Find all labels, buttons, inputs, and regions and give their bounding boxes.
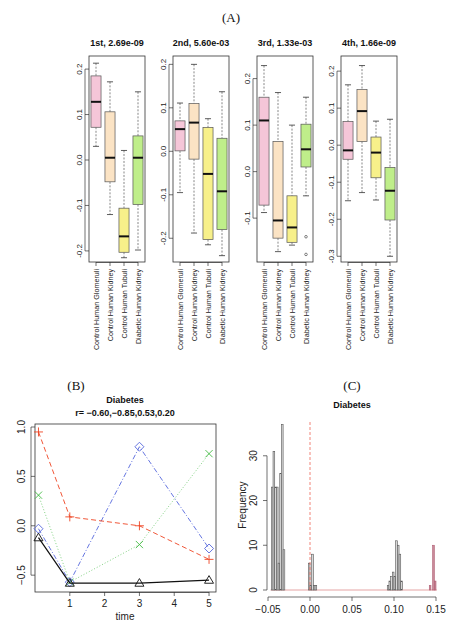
outlier-point [305,253,308,256]
x-tick-label: Control Human Glomeruli [176,269,185,350]
x-axis-label: time [116,611,135,622]
box-iqr [175,121,185,151]
box [273,93,283,252]
subplot-title: 4th, 1.66e-09 [342,38,396,48]
y-tick-label: -0.3 [327,249,336,263]
x-tick-label: 5 [206,598,212,609]
box [203,119,213,245]
box [133,92,143,250]
box-iqr [133,136,143,205]
y-tick-label: -0.1 [243,211,252,225]
line-series-plus [34,427,214,563]
boxplot-subplot: 2nd, 5.60e-03-0.2-0.10.00.10.2Control Hu… [159,38,229,350]
y-tick-label: -0.1 [327,175,336,189]
x-tick-label: Control Human Kidney [190,269,199,342]
x-tick-label: 0.15 [426,604,446,615]
figure: (A) (B) (C) 1st, 2.69e-09-0.2-0.10.00.10… [0,0,462,636]
plot-frame [35,424,216,592]
histogram-bar [434,581,436,590]
plus-marker [65,512,74,521]
x-tick-label: Diabetic Human Kidney [386,269,395,345]
y-tick-label: −0.5 [16,565,27,585]
box-iqr [301,124,311,167]
histogram-bar [401,581,403,590]
histogram-panel: Diabetes0102030Frequency−0.050.000.050.1… [237,400,446,615]
box [287,125,297,245]
chart-title: Diabetes [333,400,371,410]
box-iqr [217,138,227,229]
y-tick-label: 10 [248,539,259,551]
panel-label-b: (B) [67,378,84,393]
y-tick-label: -0.2 [159,231,168,245]
boxplot-panel: 1st, 2.69e-09-0.2-0.10.00.10.2Control Hu… [75,38,397,350]
plus-marker [135,521,144,530]
y-tick-label: 0.2 [159,58,168,70]
series-line [38,454,209,582]
box [217,92,227,256]
y-tick-label: 0.5 [16,469,27,483]
box [301,97,311,256]
box-iqr [287,196,297,243]
x-tick-label: Control Human Kidney [106,269,115,342]
y-tick-label: 0.0 [159,145,168,157]
y-tick-label: -0.1 [159,187,168,201]
box [189,64,199,233]
y-tick-label: 0.0 [327,139,336,151]
x-tick-label: Control Human Tubuli [204,269,213,339]
x-tick-label: Control Human Tubuli [120,269,129,339]
x-tick-label: Diabetic Human Kidney [302,269,311,345]
histogram-bar [283,550,285,590]
x-tick-label: −0.05 [255,604,281,615]
box [259,66,269,213]
y-axis-label: Frequency [237,481,248,528]
panel-label-a: (A) [222,10,240,25]
box [91,63,101,146]
boxplot-subplot: 4th, 1.66e-09-0.3-0.2-0.10.00.10.2Contro… [327,38,397,350]
box-iqr [259,97,269,205]
outlier-point [305,235,308,238]
box [105,82,115,215]
line-series-triangle [34,533,214,586]
x-tick-label: Control Human Glomeruli [344,269,353,350]
box-iqr [385,167,395,220]
y-tick-label: 0 [248,587,259,593]
box-iqr [343,121,353,159]
x-tick-label: 0.05 [342,604,362,615]
y-tick-label: -0.1 [75,198,84,212]
y-tick-label: 0.2 [75,63,84,75]
histogram-bar [429,586,431,590]
series-line [38,432,209,559]
x-marker [136,541,143,548]
chart-subtitle: r= −0.60,−0.85,0.53,0.20 [75,408,174,418]
subplot-title: 1st, 2.69e-09 [90,38,144,48]
boxplot-subplot: 1st, 2.69e-09-0.2-0.10.00.10.2Control Hu… [75,38,145,350]
box [357,66,367,193]
series-line [38,447,209,582]
box-iqr [273,141,283,238]
line-series-x [35,450,213,586]
x-tick-label: Control Human Tubuli [372,269,381,339]
subplot-title: 2nd, 5.60e-03 [173,38,230,48]
y-tick-label: 0.1 [243,119,252,131]
x-tick-label: Control Human Kidney [274,269,283,342]
box [175,103,185,193]
y-tick-label: 0.0 [75,154,84,166]
y-tick-label: 20 [248,495,259,507]
box-iqr [105,112,115,182]
x-tick-label: 4 [171,598,177,609]
y-tick-label: 1.0 [16,420,27,434]
box [343,85,353,201]
x-tick-label: 2 [102,598,108,609]
x-tick-label: 1 [67,598,73,609]
panel-label-c: (C) [343,378,360,393]
y-tick-label: 0.1 [75,108,84,120]
box-iqr [119,208,129,252]
box-iqr [357,90,367,142]
boxplot-subplot: 3rd, 1.33e-03-0.10.00.10.2Control Human … [243,38,313,350]
x-marker [35,492,42,499]
y-tick-label: 0.1 [159,102,168,114]
y-tick-label: -0.2 [75,243,84,257]
line-chart-panel: Diabetesr= −0.60,−0.85,0.53,0.20−0.50.00… [16,395,216,622]
y-tick-label: 0.2 [243,72,252,84]
y-tick-label: -0.2 [327,212,336,226]
